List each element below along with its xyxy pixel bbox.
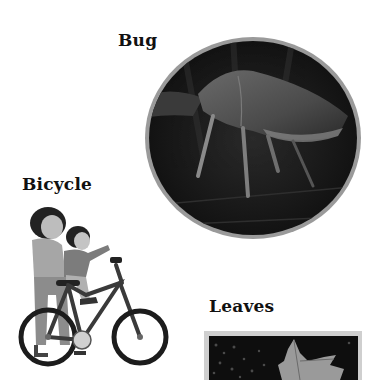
bicycle-illustration bbox=[0, 195, 180, 380]
bicycle-label: Bicycle bbox=[22, 174, 92, 194]
leaves-label: Leaves bbox=[209, 296, 274, 316]
leaves-photo bbox=[204, 331, 362, 380]
